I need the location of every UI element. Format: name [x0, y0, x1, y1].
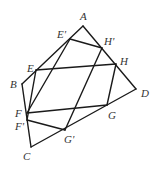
point-label-d: D — [140, 87, 149, 99]
segment-gp-fp — [27, 120, 65, 130]
quadrilateral-diagram: ABCDEE'FF'GG'HH' — [0, 0, 159, 170]
point-label-g: G — [108, 109, 116, 121]
segment-a-b — [22, 26, 83, 84]
segment-e-h — [36, 64, 116, 70]
point-label-b: B — [10, 78, 17, 90]
point-label-a: A — [79, 10, 87, 22]
diagram-labels: ABCDEE'FF'GG'HH' — [10, 10, 149, 162]
point-label-e: E — [26, 62, 34, 74]
segment-f-ep — [27, 39, 70, 113]
point-label-h: H — [119, 55, 129, 67]
segment-c-d — [31, 89, 136, 147]
point-label-c: C — [23, 150, 31, 162]
point-label-ep: E' — [56, 28, 67, 40]
point-label-f: F — [14, 107, 22, 119]
point-label-gp: G' — [64, 133, 75, 145]
point-label-fp: F' — [14, 120, 25, 132]
diagram-edges — [22, 26, 136, 147]
segment-b-c — [22, 84, 31, 147]
segment-h-g — [107, 64, 116, 105]
point-label-hp: H' — [103, 35, 115, 47]
